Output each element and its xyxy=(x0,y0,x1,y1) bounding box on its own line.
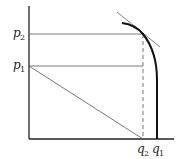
diagram-canvas: p 2 p 1 q 2 q 1 xyxy=(0,0,185,159)
label-q2: q 2 xyxy=(137,142,149,158)
diagonal-line xyxy=(29,66,143,139)
label-p1: p 1 xyxy=(13,58,25,74)
label-p2: p 2 xyxy=(13,26,25,42)
label-q1: q 1 xyxy=(152,142,164,158)
svg-text:2: 2 xyxy=(20,33,25,42)
svg-text:1: 1 xyxy=(20,65,25,74)
svg-text:1: 1 xyxy=(159,149,164,158)
svg-text:2: 2 xyxy=(144,149,149,158)
